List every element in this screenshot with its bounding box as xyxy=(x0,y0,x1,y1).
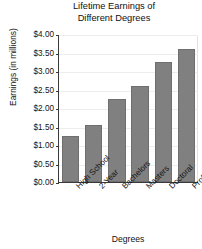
y-axis-tick-label: $1.50 xyxy=(16,123,54,131)
chart-title: Lifetime Earnings of Different Degrees xyxy=(30,1,198,24)
x-axis-tick-label: Bachelors xyxy=(121,185,127,191)
y-axis-tick-label: $0.50 xyxy=(16,160,54,168)
x-axis-title: Degrees xyxy=(58,234,198,244)
y-axis-tick-label: $0.00 xyxy=(16,179,54,187)
chart-title-line-2: Different Degrees xyxy=(30,13,198,25)
y-axis-tick-labels: $0.00$0.50$1.00$1.50$2.00$2.50$3.00$3.50… xyxy=(16,35,54,183)
x-axis-tick-labels: High School2-YearBachelorsMastersDoctora… xyxy=(58,183,198,229)
y-axis-tick-label: $1.00 xyxy=(16,142,54,150)
y-axis-tick-label: $2.50 xyxy=(16,86,54,94)
plot-area xyxy=(58,35,198,183)
y-axis-tick-label: $3.50 xyxy=(16,49,54,57)
chart-title-line-1: Lifetime Earnings of xyxy=(30,1,198,13)
y-axis-tick-label: $3.00 xyxy=(16,68,54,76)
y-axis-tick-label: $4.00 xyxy=(16,31,54,39)
x-axis-tick-label: High School xyxy=(75,185,81,191)
x-axis-tick-label: Masters xyxy=(145,185,151,191)
bar-chart-figure: Lifetime Earnings of Different Degrees E… xyxy=(0,0,202,249)
x-axis-tick-label: Doctoral xyxy=(168,185,174,191)
x-axis-tick-label: Professional xyxy=(191,185,197,191)
bar-series xyxy=(59,35,198,182)
y-axis-tick-label: $2.00 xyxy=(16,105,54,113)
x-axis-tick-label: 2-Year xyxy=(98,185,104,191)
bar xyxy=(62,136,79,182)
bar xyxy=(178,49,195,182)
